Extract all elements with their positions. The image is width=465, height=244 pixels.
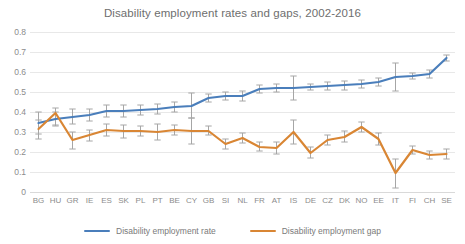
legend-label: Disability employment rate [116,226,216,236]
y-axis-tick-label: 0.1 [14,167,26,177]
series-plot [30,32,455,192]
x-axis-tick-label: NL [237,196,247,205]
y-axis-tick-label: 0.4 [14,107,26,117]
plot-area: 00.10.20.30.40.50.60.70.8 BGHUGRIEESSKPL… [30,32,455,192]
y-axis-tick-label: 0.2 [14,147,26,157]
x-axis-tick-label: IS [290,196,298,205]
legend-item[interactable]: Disability employment gap [250,226,381,236]
x-axis-tick-label: SE [441,196,452,205]
y-axis-tick-label: 0.6 [14,67,26,77]
x-axis-tick-label: DK [339,196,350,205]
x-axis-tick-label: AT [272,196,282,205]
x-axis-tick-label: CZ [322,196,333,205]
y-axis-tick-label: 0.8 [14,27,26,37]
x-axis-tick-label: GR [67,196,79,205]
x-axis-tick-label: PT [152,196,162,205]
legend-label: Disability employment gap [282,226,381,236]
x-axis-tick-label: GB [203,196,215,205]
x-axis-tick-label: IE [86,196,94,205]
x-axis-tick-label: PL [136,196,146,205]
x-axis-tick-label: IT [392,196,399,205]
y-axis-tick-label: 0.3 [14,127,26,137]
error-bars [35,55,449,134]
x-axis-tick-label: FR [254,196,265,205]
x-axis-tick-label: SK [118,196,129,205]
x-axis-tick-label: DE [305,196,316,205]
chart-container: Disability employment rates and gaps, 20… [0,0,465,244]
y-axis-tick-label: 0.7 [14,47,26,57]
legend-swatch [250,230,276,233]
x-axis-tick-label: SI [222,196,230,205]
x-axis-tick-label: ES [101,196,112,205]
x-axis-tick-label: EE [373,196,384,205]
x-axis-tick-label: FI [409,196,416,205]
chart-legend: Disability employment rateDisability emp… [0,226,465,236]
x-axis-tick-label: NO [356,196,368,205]
x-axis-tick-label: BG [33,196,45,205]
x-axis-tick-label: CY [186,196,197,205]
error-bars [35,108,449,188]
legend-swatch [84,230,110,233]
y-axis-tick-label: 0.5 [14,87,26,97]
x-axis-line [30,192,455,193]
y-axis-tick-label: 0 [21,187,26,197]
legend-item[interactable]: Disability employment rate [84,226,216,236]
x-axis-tick-label: HU [50,196,62,205]
chart-title: Disability employment rates and gaps, 20… [0,7,465,19]
x-axis-tick-label: BE [169,196,180,205]
x-axis-tick-label: CH [424,196,436,205]
